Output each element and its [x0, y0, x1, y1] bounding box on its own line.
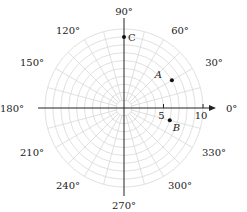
tick-label-10: 10 [195, 110, 208, 121]
angle-label-270: 270° [112, 200, 136, 211]
angle-label-180: 180° [0, 103, 24, 114]
angle-label-0: 0° [226, 103, 237, 114]
arrowhead-icon [209, 105, 216, 111]
angle-label-330: 330° [202, 147, 226, 158]
point-label-c: C [128, 32, 136, 43]
point-label-a: A [154, 69, 162, 80]
angle-label-30: 30° [205, 57, 223, 68]
angle-label-120: 120° [56, 25, 80, 36]
point-c [122, 35, 126, 39]
angle-label-90: 90° [115, 6, 133, 17]
point-b [168, 118, 172, 122]
angle-label-210: 210° [20, 147, 44, 158]
angle-label-240: 240° [56, 180, 80, 191]
radial-ticks: 510 [158, 104, 207, 121]
angle-label-150: 150° [20, 57, 44, 68]
point-label-b: B [172, 122, 180, 133]
tick-label-5: 5 [158, 110, 164, 121]
point-a [170, 78, 174, 82]
angle-label-60: 60° [171, 25, 189, 36]
angle-label-300: 300° [168, 180, 192, 191]
polar-coordinate-grid: 0°30°60°90°120°150°180°210°240°270°300°3… [0, 0, 247, 212]
